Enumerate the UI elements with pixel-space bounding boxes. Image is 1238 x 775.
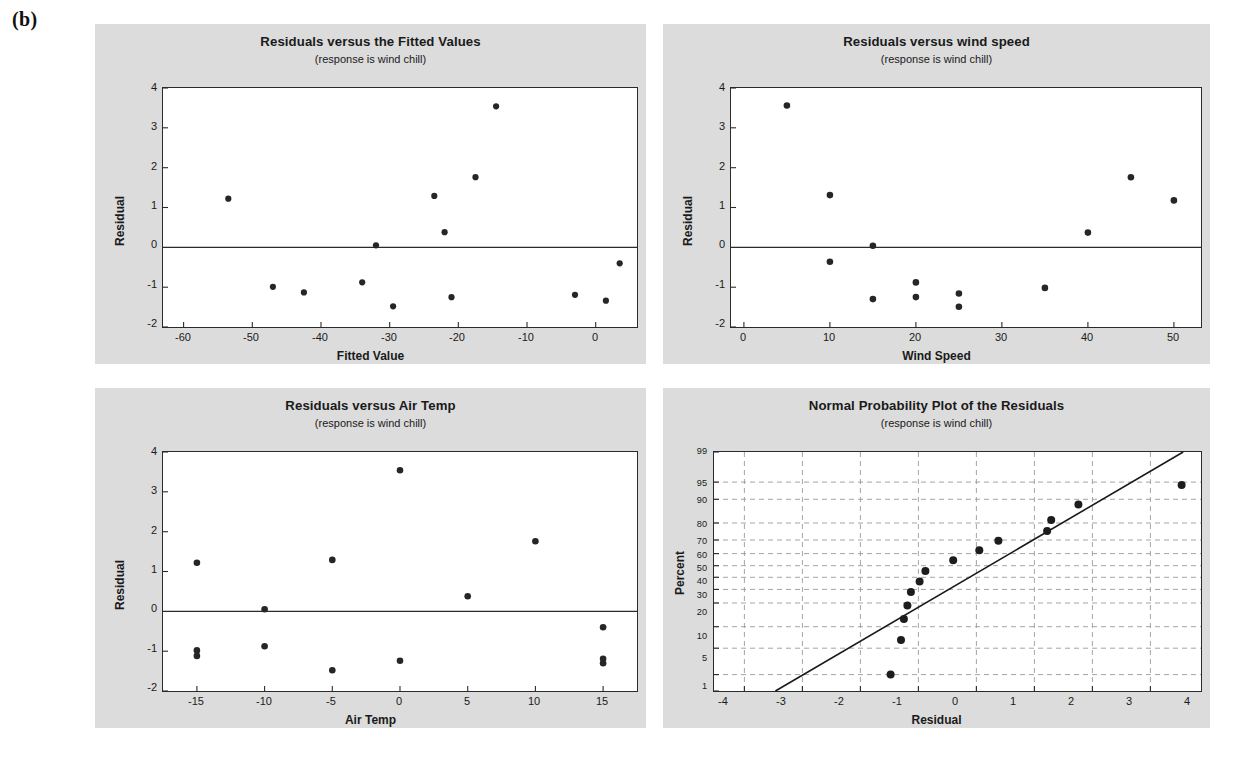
y-tick-label: 10 bbox=[681, 631, 707, 641]
x-tick-label: -5 bbox=[311, 695, 351, 707]
y-tick-marks bbox=[163, 452, 168, 691]
panel-title: Residuals versus wind speed bbox=[663, 34, 1210, 49]
y-tick-label: 90 bbox=[681, 495, 707, 505]
x-tick-label: 20 bbox=[895, 331, 935, 343]
y-tick-label: 4 bbox=[125, 81, 157, 93]
y-tick-label: 4 bbox=[125, 445, 157, 457]
scatter-svg bbox=[163, 452, 637, 691]
scatter-svg bbox=[163, 88, 637, 327]
x-tick-label: 15 bbox=[582, 695, 622, 707]
scatter-svg bbox=[731, 88, 1201, 327]
y-tick-label: 95 bbox=[681, 478, 707, 488]
panel-subtitle: (response is wind chill) bbox=[663, 417, 1210, 429]
x-tick-label: 0 bbox=[723, 331, 763, 343]
x-tick-label: 10 bbox=[514, 695, 554, 707]
x-tick-marks bbox=[197, 686, 603, 691]
x-tick-label: 0 bbox=[575, 331, 615, 343]
y-tick-label: 50 bbox=[681, 563, 707, 573]
normal-reference-line bbox=[775, 452, 1183, 691]
x-tick-label: -10 bbox=[244, 695, 284, 707]
y-tick-label: 3 bbox=[125, 120, 157, 132]
y-tick-label: 20 bbox=[681, 607, 707, 617]
plot-area bbox=[162, 451, 638, 692]
x-tick-label: 4 bbox=[1170, 695, 1204, 707]
y-tick-label: 0 bbox=[693, 238, 725, 250]
panel-subtitle: (response is wind chill) bbox=[95, 417, 646, 429]
y-tick-label: 4 bbox=[693, 81, 725, 93]
horizontal-gridlines bbox=[714, 482, 1201, 674]
x-tick-marks bbox=[184, 322, 596, 327]
plot-area bbox=[162, 87, 638, 328]
y-tick-marks bbox=[714, 452, 719, 691]
x-tick-marks bbox=[744, 322, 1174, 327]
data-points bbox=[194, 467, 607, 674]
panel-residuals-vs-air-temp: Residuals versus Air Temp (response is w… bbox=[95, 388, 646, 728]
x-tick-label: 1 bbox=[996, 695, 1030, 707]
x-tick-label: -2 bbox=[822, 695, 856, 707]
x-tick-label: -20 bbox=[437, 331, 477, 343]
data-points bbox=[784, 102, 1178, 310]
x-tick-label: 50 bbox=[1153, 331, 1193, 343]
x-tick-label: -60 bbox=[163, 331, 203, 343]
y-tick-label: 0 bbox=[125, 602, 157, 614]
y-tick-label: 5 bbox=[681, 653, 707, 663]
y-tick-label: 99 bbox=[681, 446, 707, 456]
x-tick-label: -3 bbox=[764, 695, 798, 707]
y-tick-label: 3 bbox=[693, 120, 725, 132]
x-tick-label: 10 bbox=[809, 331, 849, 343]
y-tick-label: 30 bbox=[681, 590, 707, 600]
x-axis-title: Wind Speed bbox=[663, 349, 1210, 363]
panel-residuals-vs-wind-speed: Residuals versus wind speed (response is… bbox=[663, 24, 1210, 364]
plot-area bbox=[713, 451, 1202, 692]
y-tick-label: -2 bbox=[125, 681, 157, 693]
x-tick-label: -15 bbox=[176, 695, 216, 707]
y-tick-label: 1 bbox=[693, 199, 725, 211]
panel-title: Normal Probability Plot of the Residuals bbox=[663, 398, 1210, 413]
x-axis-title: Air Temp bbox=[95, 713, 646, 727]
x-tick-label: -50 bbox=[231, 331, 271, 343]
figure-root: (b) Residuals versus the Fitted Values (… bbox=[0, 0, 1238, 775]
y-tick-label: 1 bbox=[681, 681, 707, 691]
y-tick-label: 3 bbox=[125, 484, 157, 496]
data-points bbox=[225, 103, 623, 309]
x-axis-title: Fitted Value bbox=[95, 349, 646, 363]
y-tick-label: 2 bbox=[693, 160, 725, 172]
y-tick-label: 0 bbox=[125, 238, 157, 250]
y-tick-label: 2 bbox=[125, 524, 157, 536]
part-label-b: (b) bbox=[12, 8, 37, 31]
panel-subtitle: (response is wind chill) bbox=[663, 53, 1210, 65]
vertical-gridlines bbox=[744, 452, 1150, 691]
y-tick-label: -1 bbox=[693, 278, 725, 290]
y-tick-label: 70 bbox=[681, 536, 707, 546]
y-tick-label: -1 bbox=[125, 278, 157, 290]
x-tick-label: 40 bbox=[1067, 331, 1107, 343]
y-tick-label: -1 bbox=[125, 642, 157, 654]
y-tick-label: 1 bbox=[125, 563, 157, 575]
y-tick-marks bbox=[731, 88, 736, 327]
plot-area bbox=[730, 87, 1202, 328]
y-tick-label: 2 bbox=[125, 160, 157, 172]
x-tick-label: 0 bbox=[379, 695, 419, 707]
x-tick-label: -1 bbox=[880, 695, 914, 707]
x-tick-label: -30 bbox=[369, 331, 409, 343]
x-tick-label: 0 bbox=[938, 695, 972, 707]
x-tick-marks bbox=[744, 686, 1150, 691]
panel-normal-probability-plot: Normal Probability Plot of the Residuals… bbox=[663, 388, 1210, 728]
x-tick-label: 30 bbox=[981, 331, 1021, 343]
y-tick-label: -2 bbox=[125, 317, 157, 329]
x-tick-label: 3 bbox=[1112, 695, 1146, 707]
y-tick-label: -2 bbox=[693, 317, 725, 329]
panel-title: Residuals versus Air Temp bbox=[95, 398, 646, 413]
y-tick-label: 1 bbox=[125, 199, 157, 211]
x-tick-label: -4 bbox=[706, 695, 740, 707]
y-tick-label: 80 bbox=[681, 519, 707, 529]
x-tick-label: 2 bbox=[1054, 695, 1088, 707]
y-tick-label: 40 bbox=[681, 576, 707, 586]
data-points bbox=[887, 481, 1186, 679]
panel-residuals-vs-fitted: Residuals versus the Fitted Values (resp… bbox=[95, 24, 646, 364]
normal-plot-svg bbox=[714, 452, 1201, 691]
panel-title: Residuals versus the Fitted Values bbox=[95, 34, 646, 49]
panel-subtitle: (response is wind chill) bbox=[95, 53, 646, 65]
x-tick-label: -10 bbox=[506, 331, 546, 343]
x-tick-label: 5 bbox=[447, 695, 487, 707]
